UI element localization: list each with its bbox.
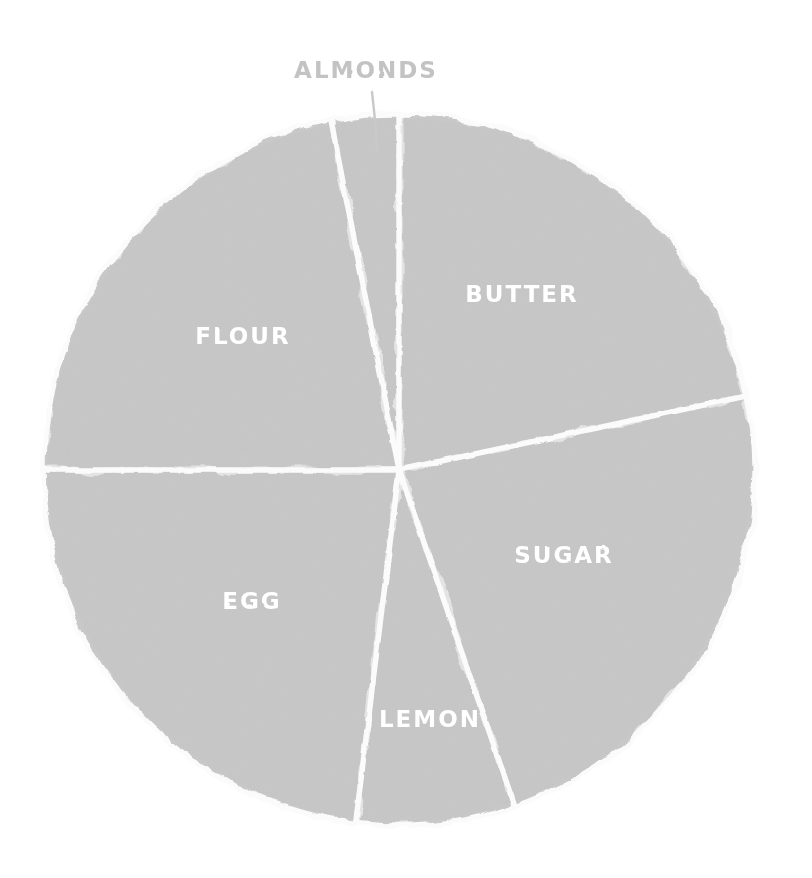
slice-label-flour: FLOUR [195,323,291,349]
slice-label-almonds: ALMONDS [294,57,438,83]
pie-chart-figure: ALMONDSBUTTERSUGARLEMONEGGFLOUR [0,0,812,878]
pie-chart-canvas: ALMONDSBUTTERSUGARLEMONEGGFLOUR [0,0,812,878]
slice-label-lemon: LEMON [379,706,481,732]
slice-label-egg: EGG [222,588,281,614]
slice-label-butter: BUTTER [465,281,579,307]
slice-label-sugar: SUGAR [514,542,614,568]
